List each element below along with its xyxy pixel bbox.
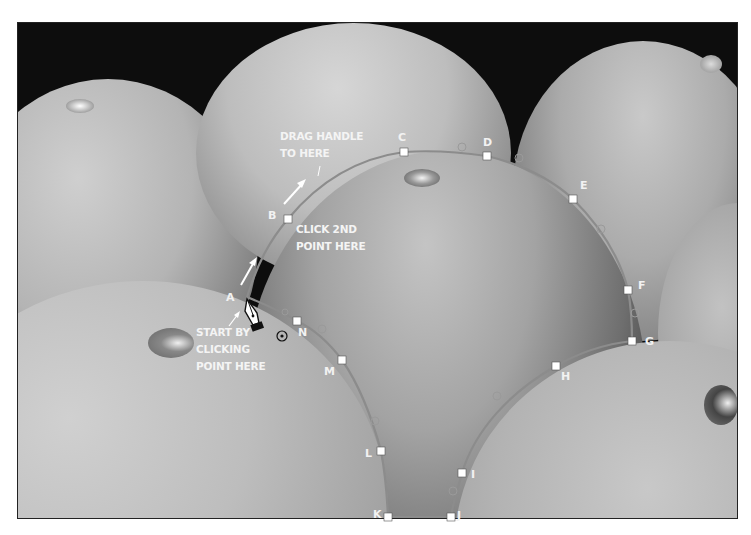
- label-e: E: [580, 179, 588, 192]
- anchor-h[interactable]: [552, 362, 560, 370]
- anchor-l[interactable]: [377, 447, 385, 455]
- note-click-2nd: CLICK 2ND POINT HERE: [296, 223, 365, 252]
- anchor-d[interactable]: [483, 152, 491, 160]
- label-j: J: [456, 509, 461, 522]
- label-b: B: [268, 209, 276, 222]
- anchor-g[interactable]: [628, 337, 636, 345]
- anchor-k[interactable]: [384, 513, 392, 521]
- anchor-m[interactable]: [338, 356, 346, 364]
- svg-text:START BY: START BY: [196, 326, 250, 338]
- anchor-points[interactable]: [284, 148, 636, 521]
- anchor-c[interactable]: [400, 148, 408, 156]
- label-a: A: [226, 291, 235, 304]
- label-d: D: [483, 136, 492, 149]
- arrow-up-right-icon: [241, 257, 257, 285]
- label-h: H: [561, 370, 570, 383]
- svg-text:POINT HERE: POINT HERE: [296, 240, 365, 252]
- label-f: F: [638, 279, 646, 292]
- handle-circles: [282, 143, 639, 495]
- svg-text:POINT HERE: POINT HERE: [196, 360, 265, 372]
- label-i: I: [471, 468, 475, 481]
- path-overlay: A B C D E F G H I J K L M N DRAG HANDLE …: [0, 0, 751, 535]
- anchor-labels: A B C D E F G H I J K L M N: [226, 131, 654, 522]
- anchor-i[interactable]: [458, 469, 466, 477]
- note-start: START BY CLICKING POINT HERE: [196, 326, 265, 372]
- label-m: M: [324, 365, 335, 378]
- label-k: K: [373, 508, 382, 521]
- svg-text:TO HERE: TO HERE: [280, 147, 330, 159]
- close-path-circle-icon: [277, 331, 287, 341]
- anchor-f[interactable]: [624, 286, 632, 294]
- label-g: G: [645, 335, 654, 348]
- svg-text:CLICK 2ND: CLICK 2ND: [296, 223, 357, 235]
- anchor-n[interactable]: [293, 317, 301, 325]
- note-drag-handle: DRAG HANDLE TO HERE: [280, 130, 363, 159]
- svg-text:CLICKING: CLICKING: [196, 343, 250, 355]
- svg-text:DRAG HANDLE: DRAG HANDLE: [280, 130, 363, 142]
- anchor-b[interactable]: [284, 215, 292, 223]
- label-n: N: [298, 326, 307, 339]
- label-c: C: [398, 131, 406, 144]
- anchor-e[interactable]: [569, 195, 577, 203]
- label-l: L: [365, 447, 372, 460]
- arrow-up-right-icon: [284, 179, 306, 204]
- anchor-j[interactable]: [447, 513, 455, 521]
